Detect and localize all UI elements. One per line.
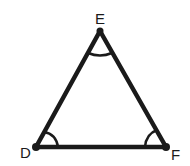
vertex-e-dot	[97, 28, 104, 35]
vertex-label-d: D	[20, 144, 31, 161]
angle-mark-e	[88, 53, 112, 56]
triangle-diagram: E D F	[0, 0, 190, 166]
vertex-label-e: E	[95, 10, 105, 27]
side-de	[36, 31, 100, 147]
vertex-f-dot	[162, 143, 170, 151]
vertex-label-f: F	[171, 146, 180, 163]
vertex-d-dot	[32, 143, 40, 151]
